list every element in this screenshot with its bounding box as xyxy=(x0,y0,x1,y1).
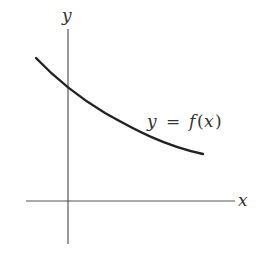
y-axis-label: y xyxy=(61,5,72,25)
x-axis-label: x xyxy=(238,190,248,210)
curve-label-close-paren: ) xyxy=(215,111,222,131)
curve-label-var: y xyxy=(146,111,157,131)
function-graph-diagram: y x y = f ( x ) xyxy=(0,0,259,253)
curve-label-arg: x xyxy=(204,111,214,131)
function-curve xyxy=(36,58,203,154)
graph-svg: y x y = f ( x ) xyxy=(0,0,259,253)
curve-label-open-paren: ( xyxy=(197,111,204,131)
curve-label: y = f ( x ) xyxy=(146,111,222,131)
curve-label-equals: = xyxy=(166,111,180,131)
